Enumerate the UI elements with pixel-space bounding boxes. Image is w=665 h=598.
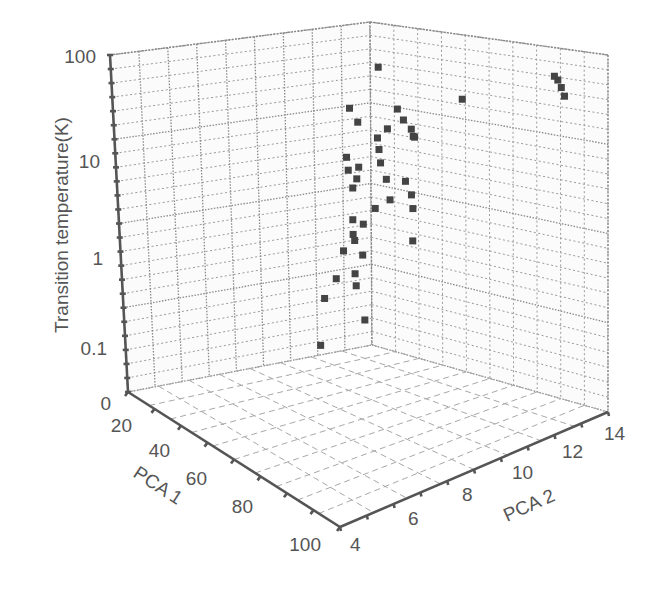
- data-point: [333, 275, 340, 282]
- data-point: [349, 216, 356, 223]
- data-point: [409, 237, 416, 244]
- z-tick-100: 100: [64, 46, 96, 67]
- data-point: [402, 178, 409, 185]
- pca2-tick-6: 6: [408, 508, 419, 529]
- data-point: [384, 125, 391, 132]
- data-point: [408, 191, 415, 198]
- data-point: [409, 205, 416, 212]
- pca1-tick-80: 80: [232, 496, 253, 517]
- pca2-tick-12: 12: [562, 441, 583, 462]
- data-point: [343, 154, 350, 161]
- scatter3d-chart: 100 10 1 0.1 0 Transition temperature(K)…: [0, 0, 665, 598]
- data-point: [551, 73, 558, 80]
- data-point: [321, 295, 328, 302]
- z-tick-10: 10: [79, 151, 100, 172]
- pca2-tick-14: 14: [604, 423, 626, 444]
- data-point: [459, 96, 466, 103]
- data-point: [349, 184, 356, 191]
- data-point: [375, 64, 382, 71]
- data-point: [383, 176, 390, 183]
- pca1-tick-20: 20: [111, 415, 132, 436]
- data-point: [410, 133, 417, 140]
- data-point: [345, 167, 352, 174]
- pca1-axis-title: PCA 1: [130, 462, 187, 509]
- data-point: [355, 164, 362, 171]
- right-back-wall: [370, 22, 608, 412]
- data-point: [350, 231, 357, 238]
- data-point: [360, 221, 367, 228]
- pca1-tick-100: 100: [289, 534, 321, 555]
- data-point: [394, 106, 401, 113]
- pca2-tick-8: 8: [462, 484, 473, 505]
- data-point: [558, 84, 565, 91]
- data-point: [561, 93, 568, 100]
- data-point: [352, 270, 359, 277]
- z-tick-0.1: 0.1: [81, 338, 107, 359]
- pca2-tick-4: 4: [350, 534, 361, 555]
- data-point: [340, 247, 347, 254]
- data-point: [346, 105, 353, 112]
- z-axis-title: Transition temperature(K): [51, 117, 72, 333]
- pca2-tick-10: 10: [512, 462, 533, 483]
- data-point: [374, 134, 381, 141]
- data-point: [400, 116, 407, 123]
- pca1-tick-40: 40: [149, 440, 170, 461]
- data-point: [317, 342, 324, 349]
- data-point: [353, 175, 360, 182]
- left-back-wall: [110, 22, 372, 392]
- data-point: [377, 159, 384, 166]
- data-point: [351, 237, 358, 244]
- data-point: [375, 146, 382, 153]
- data-point: [372, 205, 379, 212]
- pca2-axis-title: PCA 2: [500, 485, 558, 526]
- data-point: [359, 252, 366, 259]
- data-point: [353, 282, 360, 289]
- data-point: [354, 119, 361, 126]
- data-point: [387, 196, 394, 203]
- z-tick-0: 0: [100, 393, 111, 414]
- pca1-tick-60: 60: [186, 468, 207, 489]
- z-tick-1: 1: [92, 248, 103, 269]
- data-point: [408, 126, 415, 133]
- pca2-tick-labels: 4 6 8 10 12 14: [350, 423, 626, 555]
- data-point: [361, 316, 368, 323]
